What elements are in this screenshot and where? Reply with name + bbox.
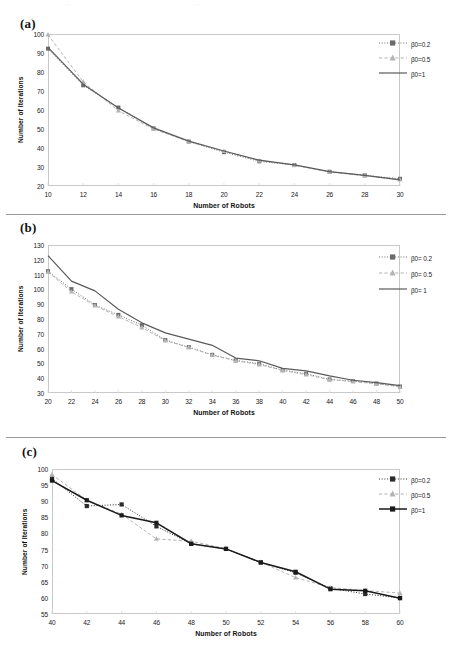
data-point-marker [85,504,89,508]
x-axis-tick-label: 10 [36,191,60,198]
y-axis-tick-label: 50 [22,126,44,133]
y-axis-tick-label: 100 [22,31,44,38]
y-axis-tick-label: 130 [22,242,44,249]
x-axis-tick-label: 28 [353,191,377,198]
data-point-marker [294,570,298,574]
legend-label: β0=0.2 [411,476,430,483]
x-axis-tick-label: 38 [247,398,271,405]
data-point-marker [154,536,159,540]
x-axis-tick-label: 52 [249,619,273,626]
plot-area [48,34,400,186]
legend-key-icon [378,472,408,486]
x-axis-tick-label: 24 [282,191,306,198]
y-axis-tick-label: 30 [22,164,44,171]
x-axis-tick-label: 30 [388,191,412,198]
x-axis-tick-label: 40 [40,619,64,626]
x-axis-tick-label: 24 [83,398,107,405]
x-axis-tick-label: 28 [130,398,154,405]
x-axis-tick-label: 20 [212,191,236,198]
x-axis-tick-label: 46 [144,619,168,626]
y-axis-tick-label: 20 [22,183,44,190]
y-axis-tick-label: 40 [22,375,44,382]
x-axis-tick-label: 26 [318,191,342,198]
x-axis-tick-label: 40 [271,398,295,405]
x-axis-tick-label: 12 [71,191,95,198]
y-axis-tick-label: 75 [26,546,48,553]
data-point-marker [189,542,193,546]
x-axis-tick-label: 18 [177,191,201,198]
series-line [52,481,400,599]
legend-label: β0=0.2 [411,40,430,47]
x-axis-tick-label: 22 [247,191,271,198]
y-axis-tick-label: 80 [22,69,44,76]
x-axis-tick-label: 32 [177,398,201,405]
series-line [48,256,400,386]
legend-key-icon [378,266,408,280]
y-axis-tick-label: 90 [22,301,44,308]
legend-label: β0= 0.5 [411,271,432,278]
y-axis-tick-label: 70 [26,562,48,569]
y-axis-tick-label: 60 [22,345,44,352]
scan-artifact: ··· [196,1,201,7]
data-point-marker [85,498,89,502]
scan-artifact: ·· ·· [66,1,74,7]
legend-label: β0=1 [411,70,425,77]
x-axis-title: Number of Robots [52,630,400,637]
series-line [48,271,400,386]
data-point-marker [224,547,228,551]
legend-label: β0= 0.2 [411,255,432,262]
x-axis-tick-label: 46 [341,398,365,405]
x-axis-tick-label: 22 [59,398,83,405]
legend-label: β0=0.5 [411,491,430,498]
y-axis-tick-label: 50 [22,360,44,367]
y-axis-tick-label: 85 [26,514,48,521]
x-axis-tick-label: 44 [318,398,342,405]
legend-key-icon [378,66,408,80]
data-point-marker [120,513,124,517]
x-axis-tick-label: 60 [388,619,412,626]
series-line [48,47,400,180]
y-axis-tick-label: 65 [26,578,48,585]
data-point-marker [328,587,332,591]
x-axis-tick-label: 50 [388,398,412,405]
legend-key-icon [378,487,408,501]
x-axis-title: Number of Robots [48,409,400,416]
plot-area [48,245,400,393]
y-axis-tick-label: 80 [22,316,44,323]
x-axis-tick-label: 26 [106,398,130,405]
legend-label: β0=1 [411,506,425,513]
y-axis-tick-label: 70 [22,330,44,337]
legend-key-icon [378,502,408,516]
y-axis-title: Number of Iterations [17,286,24,352]
y-axis-tick-label: 80 [26,530,48,537]
series-layer [48,34,400,186]
plot-area [52,469,400,614]
legend-key-icon [378,51,408,65]
panel-separator-2 [6,437,446,438]
y-axis-tick-label: 60 [22,107,44,114]
data-point-marker [120,502,124,506]
figure-root: ·· ·· ··· (a) 20304050607080901001012141… [0,0,452,669]
x-axis-tick-label: 48 [365,398,389,405]
y-axis-tick-label: 95 [26,482,48,489]
series-line [48,272,400,387]
x-axis-tick-label: 14 [106,191,130,198]
y-axis-tick-label: 90 [26,498,48,505]
x-axis-tick-label: 48 [179,619,203,626]
y-axis-tick-label: 100 [22,286,44,293]
legend-key-icon [378,36,408,50]
x-axis-title: Number of Robots [48,202,400,209]
y-axis-tick-label: 30 [22,390,44,397]
y-axis-tick-label: 90 [22,50,44,57]
x-axis-tick-label: 34 [200,398,224,405]
x-axis-tick-label: 36 [224,398,248,405]
y-axis-tick-label: 70 [22,88,44,95]
x-axis-tick-label: 54 [284,619,308,626]
legend-key-icon [378,282,408,296]
data-point-marker [398,596,402,600]
x-axis-tick-label: 56 [318,619,342,626]
data-point-marker [259,560,263,564]
legend-label: β0=0.5 [411,55,430,62]
y-axis-tick-label: 110 [22,271,44,278]
data-point-marker [45,32,50,36]
